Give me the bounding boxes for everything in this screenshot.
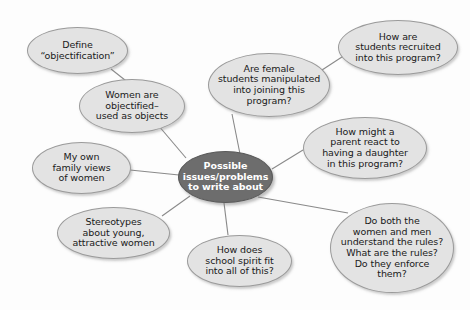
node-label-stereotypes: Stereotypes about young, attractive wome…	[69, 217, 157, 249]
node-label-define-objectification: Define “objectification”	[37, 40, 117, 61]
edge-family-views-to-center	[130, 170, 179, 175]
node-label-female-students-manipulated: Are female students manipulated into joi…	[215, 64, 323, 107]
node-label-school-spirit: How does school spirit fit into all of t…	[202, 245, 276, 277]
node-label-women-objectified: Women are objectified– used as objects	[93, 90, 171, 122]
node-school-spirit[interactable]: How does school spirit fit into all of t…	[187, 235, 292, 287]
edge-school-spirit-to-center	[224, 203, 228, 235]
node-label-understand-rules: Do both the women and men understand the…	[338, 216, 446, 280]
node-women-objectified[interactable]: Women are objectified– used as objects	[79, 79, 185, 133]
edge-women-objectified-to-center	[158, 125, 186, 158]
edge-understand-rules-to-center	[258, 197, 348, 213]
node-label-center: Possible issues/problems to write about	[180, 161, 271, 193]
node-understand-rules[interactable]: Do both the women and men understand the…	[330, 203, 454, 293]
node-parent-react[interactable]: How might a parent react to having a dau…	[303, 117, 427, 179]
edge-stereotypes-to-center	[162, 196, 190, 216]
edge-female-students-manipulated-to-center	[232, 114, 240, 154]
concept-map-diagram: Define “objectification”Women are object…	[0, 0, 470, 310]
center-node-center[interactable]: Possible issues/problems to write about	[178, 151, 273, 203]
node-female-students-manipulated[interactable]: Are female students manipulated into joi…	[208, 53, 330, 117]
edge-parent-react-to-center	[272, 150, 303, 169]
node-stereotypes[interactable]: Stereotypes about young, attractive wome…	[57, 207, 170, 259]
node-label-parent-react: How might a parent react to having a dau…	[319, 127, 411, 170]
node-students-recruited[interactable]: How are students recruited into this pro…	[338, 20, 458, 75]
node-define-objectification[interactable]: Define “objectification”	[27, 27, 128, 74]
node-label-family-views: My own family views of women	[50, 152, 114, 184]
node-label-students-recruited: How are students recruited into this pro…	[352, 32, 443, 64]
node-family-views[interactable]: My own family views of women	[32, 142, 131, 194]
